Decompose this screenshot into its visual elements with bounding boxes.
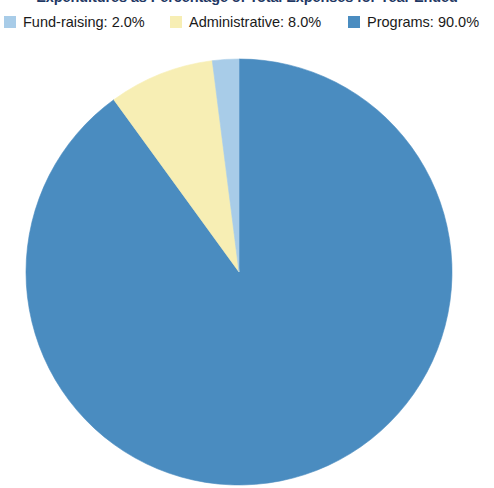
pie-plot-area bbox=[0, 0, 494, 488]
pie-svg bbox=[0, 0, 494, 488]
pie-chart-figure: Expenditures as Percentage of Total Expe… bbox=[0, 0, 494, 488]
